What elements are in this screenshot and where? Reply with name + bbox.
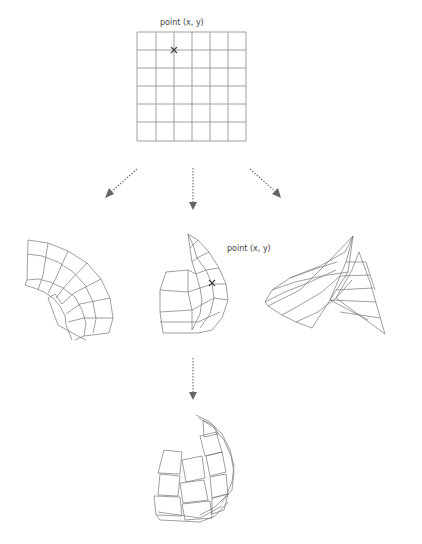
bent-tube-mesh xyxy=(25,240,113,340)
arrow-to-dome xyxy=(189,168,197,210)
saddle-surface-mesh xyxy=(265,236,385,334)
dome-surface-mesh xyxy=(160,234,228,333)
flat-grid xyxy=(137,32,246,141)
top-point-label: point (x, y) xyxy=(160,18,204,27)
dome-point-label: point (x, y) xyxy=(227,244,271,253)
arrow-to-saddle xyxy=(250,169,281,198)
arrow-to-bent-tube xyxy=(105,169,137,198)
diagram-canvas: point (x, y) xyxy=(0,0,422,544)
arrow-to-tiled-shell xyxy=(189,358,197,400)
tiled-shell-mesh xyxy=(154,415,234,522)
